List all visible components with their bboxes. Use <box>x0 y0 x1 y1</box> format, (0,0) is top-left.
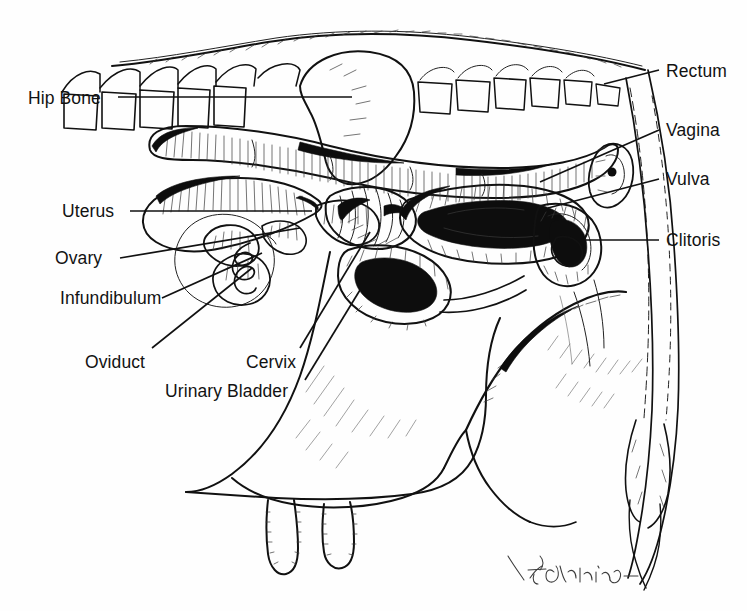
tail <box>625 70 678 590</box>
label-vagina: Vagina <box>666 122 720 140</box>
dorsal-hatching <box>150 30 621 67</box>
leader-lines <box>118 70 659 380</box>
vulva-and-clitoris <box>534 204 602 286</box>
label-uterus: Uterus <box>62 203 114 221</box>
label-cervix: Cervix <box>246 354 296 372</box>
ventral-body-wall <box>186 252 500 499</box>
label-rectum: Rectum <box>666 63 727 81</box>
label-hip-bone: Hip Bone <box>28 90 101 108</box>
vertebral-column <box>62 51 620 184</box>
dorsal-outline-group <box>112 30 645 70</box>
udder <box>232 430 466 574</box>
label-vulva: Vulva <box>666 171 710 189</box>
leader-urinary-bladder <box>305 290 360 380</box>
thigh-hair <box>484 295 620 402</box>
anatomical-figure: Hip Bone Uterus Ovary Infundibulum Ovidu… <box>0 0 747 611</box>
label-urinary-bladder: Urinary Bladder <box>165 383 288 401</box>
label-ovary: Ovary <box>55 250 102 268</box>
label-clitoris: Clitoris <box>666 232 720 250</box>
teat-2-texture <box>322 514 357 555</box>
hind-limb <box>466 292 642 527</box>
perineum-detail <box>560 280 604 366</box>
label-oviduct: Oviduct <box>85 354 145 372</box>
urinary-bladder <box>338 245 526 330</box>
label-infundibulum: Infundibulum <box>60 290 161 308</box>
artist-signature <box>508 556 638 584</box>
